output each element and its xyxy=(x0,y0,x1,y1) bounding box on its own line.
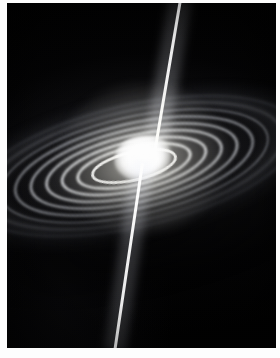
sky-plate xyxy=(7,3,276,348)
figure-frame xyxy=(0,0,280,358)
